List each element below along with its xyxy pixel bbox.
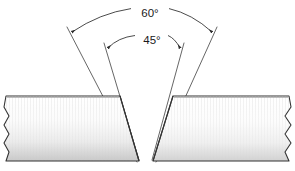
left-plate-texture xyxy=(4,96,139,161)
included-angle-label: 60° xyxy=(141,7,158,19)
right-plate-texture xyxy=(153,96,291,161)
right-plate xyxy=(153,96,291,161)
bevel-angle-dimension: 45° xyxy=(108,34,180,48)
weld-bevel-diagram: 60° 45° xyxy=(0,0,295,171)
bevel-angle-arc-right xyxy=(168,36,180,49)
included-angle-arc-right xyxy=(169,9,212,32)
included-angle-arc-left xyxy=(72,9,131,32)
weld-joint-illustration: 60° 45° xyxy=(0,0,295,171)
bevel-angle-label: 45° xyxy=(143,34,160,46)
included-angle-dimension: 60° xyxy=(72,7,212,32)
left-plate xyxy=(4,96,139,161)
bevel-angle-arc-left xyxy=(108,36,135,49)
